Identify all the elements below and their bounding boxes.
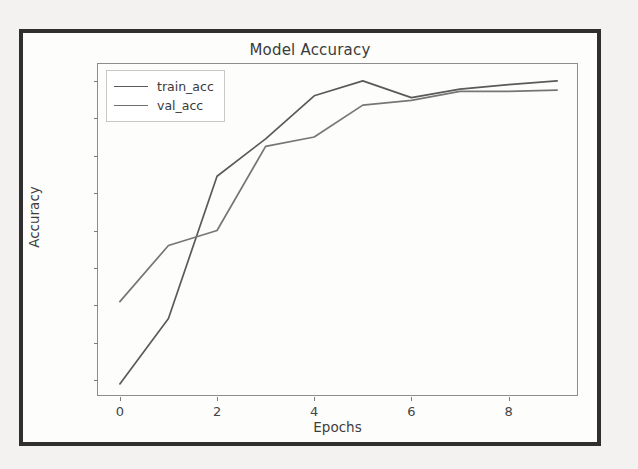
x-tick-label: 8 <box>504 404 512 419</box>
y-tick-mark <box>94 343 98 344</box>
chart-title: Model Accuracy <box>23 41 597 59</box>
legend-label: train_acc <box>157 79 214 94</box>
x-axis-label: Epochs <box>97 419 578 435</box>
y-tick-mark <box>94 81 98 82</box>
chart-legend: train_acc val_acc <box>106 70 225 122</box>
legend-line-swatch-icon <box>114 105 148 106</box>
legend-label: val_acc <box>157 98 203 113</box>
chart-frame: Model Accuracy Accuracy Epochs 0.20.30.4… <box>19 29 601 446</box>
x-tick-mark <box>217 397 218 401</box>
y-axis-label: Accuracy <box>26 142 42 292</box>
plot-area: 0.20.30.40.50.60.70.80.91.0 02468 train_… <box>97 63 578 396</box>
screenshot-page: Model Accuracy Accuracy Epochs 0.20.30.4… <box>0 0 638 469</box>
x-tick-mark <box>509 397 510 401</box>
x-tick-label: 6 <box>407 404 415 419</box>
legend-line-swatch-icon <box>114 86 148 87</box>
y-tick-mark <box>94 268 98 269</box>
y-tick-mark <box>94 118 98 119</box>
y-tick-mark <box>94 380 98 381</box>
x-tick-mark <box>120 397 121 401</box>
chart-figure: Model Accuracy Accuracy Epochs 0.20.30.4… <box>23 33 597 442</box>
x-tick-mark <box>314 397 315 401</box>
x-tick-label: 4 <box>310 404 318 419</box>
legend-item-val-acc: val_acc <box>114 96 214 115</box>
legend-item-train-acc: train_acc <box>114 77 214 96</box>
x-tick-label: 2 <box>213 404 221 419</box>
y-tick-mark <box>94 231 98 232</box>
y-tick-mark <box>94 305 98 306</box>
series-line-train-acc <box>120 81 557 384</box>
x-tick-mark <box>411 397 412 401</box>
y-tick-mark <box>94 156 98 157</box>
y-tick-mark <box>94 193 98 194</box>
x-tick-label: 0 <box>116 404 124 419</box>
